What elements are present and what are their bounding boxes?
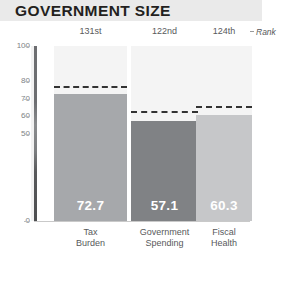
- y-axis-tick-mark: [24, 81, 30, 82]
- category-label-line-2: Health: [179, 238, 269, 249]
- bar-value-fiscal-health: 60.3: [196, 198, 252, 213]
- bar-tax-burden: 72.7: [54, 94, 127, 221]
- reference-line-tax-burden: [54, 86, 127, 88]
- y-axis-tick-mark: [24, 134, 30, 135]
- bar-government-spending: 57.1: [131, 121, 198, 221]
- bar-value-tax-burden: 72.7: [54, 198, 127, 213]
- bar-fiscal-health: 60.3: [196, 115, 252, 221]
- category-label-line-1: Fiscal: [179, 227, 269, 238]
- reference-line-fiscal-health: [196, 106, 252, 108]
- page-title: GOVERNMENT SIZE: [15, 2, 171, 20]
- y-axis-tick-mark: [24, 221, 30, 222]
- y-axis-line: [34, 46, 37, 221]
- reference-line-government-spending: [131, 111, 198, 113]
- category-label-fiscal-health: Fiscal Health: [179, 227, 269, 249]
- bar-value-government-spending: 57.1: [131, 198, 198, 213]
- chart-title-bar: GOVERNMENT SIZE: [0, 0, 262, 21]
- plot-area: 100807060500 72.7 57.1 60.3 Tax Burden G…: [0, 21, 286, 281]
- y-axis-tick-mark: [24, 116, 30, 117]
- y-axis-tick-mark: [24, 46, 30, 47]
- y-axis-tick-mark: [24, 99, 30, 100]
- chart-canvas: 131st 122nd 124th Rank 100807060500 72.7…: [0, 21, 286, 281]
- x-axis-baseline: [34, 221, 250, 222]
